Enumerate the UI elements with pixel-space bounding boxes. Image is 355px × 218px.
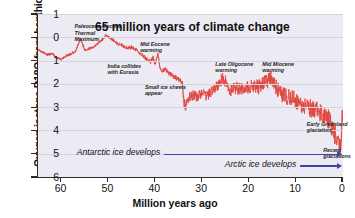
x-axis-tick-label: 40 (141, 182, 167, 194)
annotation-mid-eocene-warming: Mid Eocene warming (140, 41, 169, 54)
arrow-shaft (300, 165, 338, 167)
x-axis-tick-label: 30 (188, 182, 214, 194)
x-axis-label: Million years ago (0, 197, 350, 209)
y-axis-tick-label: 4 (37, 125, 59, 136)
series-line (38, 34, 343, 156)
annotation-small-ice-sheets-appear: Small ice sheets appear (145, 84, 186, 97)
gridline (38, 177, 343, 178)
y-axis-tick-label: 2 (37, 78, 59, 89)
chart-title: 65 million years of climate change (95, 20, 290, 34)
arrow-shaft (164, 154, 338, 156)
gridline (38, 107, 343, 108)
annotation-india-collides-with-eurasia: India collides with Eurasia (107, 63, 140, 76)
arrow-head-icon (337, 151, 342, 157)
arrow-label-arctic-ice-develops: Arctic ice develops (225, 159, 297, 169)
x-axis-tick-label: 20 (235, 182, 261, 194)
y-axis-tick-label: 1 (37, 9, 59, 20)
x-axis-tick-label: 50 (94, 182, 120, 194)
annotation-late-oligocene-warming: Late Oligocene warming (215, 61, 253, 74)
y-axis-tick-label: 3 (37, 102, 59, 113)
gridline (38, 84, 343, 85)
y-axis-tick-label: 5 (37, 148, 59, 159)
series-trend-line (38, 35, 343, 150)
x-axis-tick-label: 60 (48, 182, 74, 194)
gridline (38, 61, 343, 62)
y-axis-tick-label: 6 (37, 172, 59, 183)
annotation-mid-miocene-warming: Mid Miocene warming (262, 61, 294, 74)
gridline (38, 130, 343, 131)
y-axis-tick-label: 0 (37, 32, 59, 43)
arrow-head-icon (337, 163, 342, 169)
gridline (38, 14, 343, 15)
x-axis-tick-label: 10 (282, 182, 308, 194)
y-axis-tick-label: 1 (37, 55, 59, 66)
annotation-early-greenland-glaciation: Early Greenland glaciation (307, 121, 348, 134)
arrow-label-antarctic-ice-develops: Antarctic ice develops (77, 147, 161, 157)
x-axis-tick-label: 0 (329, 182, 355, 194)
